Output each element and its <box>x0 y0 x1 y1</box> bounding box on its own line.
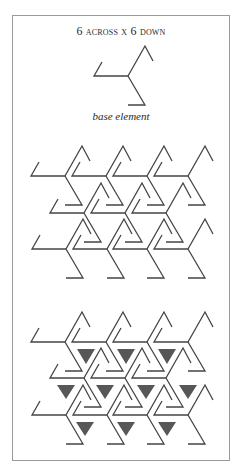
tiled-element <box>154 146 213 205</box>
left-arm <box>72 328 106 342</box>
up-arm <box>106 146 131 176</box>
left-arm <box>154 162 188 176</box>
down-arm <box>106 176 123 205</box>
up-arm <box>107 219 132 249</box>
down-arm <box>107 249 124 278</box>
up-arm <box>84 183 109 213</box>
filled-triangle <box>158 349 176 364</box>
filled-triangle <box>117 349 135 364</box>
left-arm <box>113 162 147 176</box>
filled-triangle <box>179 385 197 399</box>
down-arm <box>188 249 205 278</box>
filled-triangle <box>57 385 75 399</box>
down-arm <box>188 415 205 444</box>
down-arm <box>147 415 164 444</box>
down-arm <box>66 249 83 278</box>
pattern-artwork <box>0 0 242 472</box>
left-arm <box>91 199 125 213</box>
filled-triangle <box>117 422 135 436</box>
base-element-figure <box>94 46 153 105</box>
tiling-pattern-figure <box>31 146 213 278</box>
left-arm <box>32 401 66 415</box>
down-arm <box>66 415 83 444</box>
left-arm <box>113 401 147 415</box>
up-arm <box>106 312 131 342</box>
up-arm <box>66 219 91 249</box>
filled-triangle <box>158 422 176 436</box>
left-arm <box>154 328 188 342</box>
up-arm <box>188 312 213 342</box>
down-arm <box>188 342 205 371</box>
filled-triangle <box>96 385 114 399</box>
up-arm <box>166 183 191 213</box>
down-arm <box>65 176 82 205</box>
up-arm <box>147 312 172 342</box>
filled-triangle <box>137 385 155 399</box>
down-arm <box>107 415 124 444</box>
tiled-element <box>132 348 191 407</box>
down-arm <box>106 342 123 371</box>
down-arm <box>188 176 205 205</box>
left-arm <box>154 401 188 415</box>
up-arm <box>188 146 213 176</box>
left-arm <box>113 328 147 342</box>
up-arm <box>188 219 213 249</box>
left-arm <box>50 199 84 213</box>
up-arm <box>65 146 90 176</box>
down-arm <box>84 213 101 242</box>
tiled-element <box>132 183 191 242</box>
filled-triangle <box>77 349 95 364</box>
up-arm <box>65 312 90 342</box>
left-arm <box>72 162 106 176</box>
up-arm <box>147 219 172 249</box>
left-arm <box>31 328 65 342</box>
down-arm <box>125 213 142 242</box>
tiled-element <box>154 312 213 371</box>
tiled-element <box>154 385 213 444</box>
up-arm <box>128 46 153 76</box>
up-arm <box>125 183 150 213</box>
down-arm <box>128 76 145 105</box>
left-arm <box>32 235 66 249</box>
filled-triangle <box>76 422 94 436</box>
left-arm <box>94 62 128 76</box>
down-arm <box>147 342 164 371</box>
down-arm <box>147 249 164 278</box>
left-arm <box>132 199 166 213</box>
up-arm <box>147 146 172 176</box>
down-arm <box>147 176 164 205</box>
base-element <box>94 46 153 105</box>
tiled-element <box>154 219 213 278</box>
left-arm <box>73 401 107 415</box>
down-arm <box>65 342 82 371</box>
filled-triangle-pattern-figure <box>31 312 213 444</box>
left-arm <box>31 162 65 176</box>
